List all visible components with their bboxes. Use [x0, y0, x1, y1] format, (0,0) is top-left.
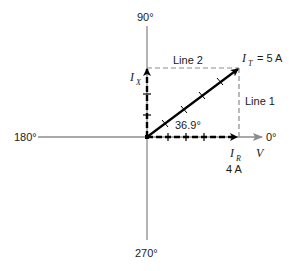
axes: [38, 26, 262, 240]
reactive-current-subscript: X: [135, 78, 142, 87]
angle-label-0: 0°: [266, 131, 277, 143]
total-current-subscript: T: [248, 59, 253, 68]
angle-label-270: 270°: [135, 247, 158, 259]
angle-label-90: 90°: [137, 11, 154, 23]
origin-point: [145, 135, 149, 139]
phase-angle-label: 36.9°: [175, 119, 201, 131]
resistive-current-phasor: [147, 133, 237, 141]
voltage-reference-label: V: [256, 146, 265, 160]
resistive-current-value: 4 A: [226, 163, 243, 175]
total-current-value: = 5 A: [257, 52, 283, 64]
reactive-current-label: I X: [129, 70, 142, 87]
angle-label-180: 180°: [14, 131, 37, 143]
line-1-label: Line 1: [245, 95, 275, 107]
total-current-label: I T = 5 A: [241, 51, 283, 68]
line-2-label: Line 2: [173, 54, 203, 66]
resistive-current-label: I R 4 A: [226, 146, 243, 175]
reactive-current-symbol: I: [129, 70, 135, 84]
resistive-current-symbol: I: [229, 146, 235, 160]
phasor-diagram: 90° 180° 0° 270° V Line 2 Line 1 36.9° I…: [0, 0, 292, 271]
total-current-symbol: I: [241, 51, 247, 65]
resistive-current-subscript: R: [235, 154, 241, 163]
